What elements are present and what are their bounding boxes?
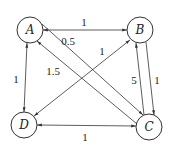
node-d: D (11, 112, 37, 138)
edge-c-b (136, 43, 144, 115)
edge-d-c (37, 125, 136, 126)
edge-c-b-label: 5 (131, 74, 137, 86)
edge-b-c-label: 1 (154, 74, 160, 86)
graph-svg: A B C D 1 1 1 1 0.5 1.5 (0, 0, 172, 155)
edge-c-a-label: 1.5 (46, 65, 60, 77)
node-a: A (17, 17, 43, 43)
node-b: B (127, 17, 153, 43)
edge-a-c-label: 0.5 (61, 35, 75, 47)
edge-a-d-label: 1 (13, 73, 19, 85)
edge-c-a (37, 41, 137, 124)
edge-a-b-label: 1 (81, 16, 87, 28)
graph-diagram: A B C D 1 1 1 1 0.5 1.5 (0, 0, 172, 155)
node-c-label: C (144, 120, 153, 134)
node-c: C (136, 114, 162, 140)
node-b-label: B (135, 23, 145, 37)
edge-b-c (146, 42, 154, 115)
edge-b-d-label: 1 (99, 45, 105, 57)
edge-a-d (24, 43, 27, 112)
node-d-label: D (18, 118, 29, 132)
node-a-label: A (25, 23, 35, 37)
edge-d-c-label: 1 (82, 131, 88, 143)
